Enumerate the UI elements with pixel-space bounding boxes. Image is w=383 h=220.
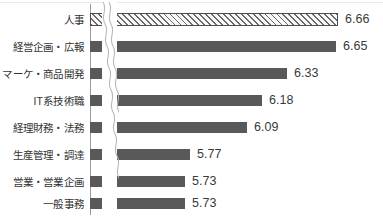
bar-group: 6.18 [90,87,293,114]
bar-row: 生産管理・調達 5.77 [0,141,383,168]
bar-group: 6.33 [90,60,318,87]
bar-row: 人事 6.66 [0,6,383,33]
bar-value-label: 6.33 [294,67,318,80]
bar [90,41,336,52]
bar [90,149,190,160]
bar-row: マーケ・商品開発 6.33 [0,60,383,87]
bar-row: 経営企画・広報 6.65 [0,33,383,60]
bar-value-label: 6.66 [345,13,369,26]
bar [90,95,262,106]
bar [90,68,287,79]
bar-group: 6.09 [90,114,278,141]
bar [90,176,185,187]
category-label: 経理財務・法務 [0,114,84,141]
category-label: 一般事務 [0,190,84,217]
category-label: 人事 [0,6,84,33]
bar [90,122,247,133]
plot-area: 人事 6.66 経営企画・広報 6.65 マーケ・商品開発 6. [0,0,383,220]
bar-highlighted [90,13,338,26]
bar-chart: 人事 6.66 経営企画・広報 6.65 マーケ・商品開発 6. [0,0,383,220]
bar-value-label: 5.73 [192,175,216,188]
bar [90,198,185,209]
bar-value-label: 6.65 [343,40,367,53]
bar-row: IT系技術職 6.18 [0,87,383,114]
bar-rows: 人事 6.66 経営企画・広報 6.65 マーケ・商品開発 6. [0,0,383,220]
category-label: 生産管理・調達 [0,141,84,168]
bar-row: 経理財務・法務 6.09 [0,114,383,141]
bar-value-label: 5.77 [197,148,221,161]
bar-row: 一般事務 5.73 [0,190,383,217]
category-label: マーケ・商品開発 [0,60,84,87]
bar-value-label: 6.09 [254,121,278,134]
category-label: 経営企画・広報 [0,33,84,60]
bar-group: 6.65 [90,33,367,60]
bar-group: 6.66 [90,6,369,33]
bar-group: 5.73 [90,190,216,217]
bar-value-label: 5.73 [192,197,216,210]
category-label: IT系技術職 [0,87,84,114]
bar-value-label: 6.18 [269,94,293,107]
bar-group: 5.77 [90,141,221,168]
